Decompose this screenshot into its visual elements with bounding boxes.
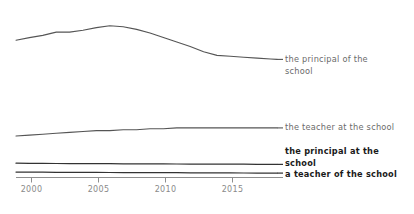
- x-tick-label-2010: 2010: [155, 185, 177, 194]
- series-label-teacher-at-the-school: the teacher at the school: [285, 122, 394, 134]
- series-label-principal-of-the-school: the principal of the school: [285, 54, 368, 77]
- series-label-principal-at-the-school: the principal at the school: [285, 146, 379, 169]
- series-line-a-teacher-of-the-school: [16, 172, 277, 173]
- line-chart: the principal of the school the teacher …: [0, 0, 414, 214]
- x-tick-label-2000: 2000: [21, 185, 43, 194]
- chart-plot-area: [0, 0, 414, 214]
- series-line-teacher-at-the-school: [16, 128, 277, 136]
- series-line-principal-of-the-school: [16, 26, 277, 60]
- series-label-a-teacher-of-the-school: a teacher of the school: [285, 169, 397, 181]
- x-tick-label-2015: 2015: [222, 185, 244, 194]
- series-line-principal-at-the-school: [16, 163, 277, 164]
- x-tick-label-2005: 2005: [88, 185, 110, 194]
